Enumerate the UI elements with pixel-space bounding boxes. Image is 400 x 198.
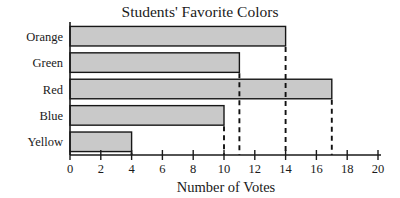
bar-chart: Students' Favorite Colors OrangeGreenRed… — [0, 0, 400, 198]
x-tick-label-10: 10 — [218, 162, 231, 176]
x-tick-label-2: 2 — [98, 162, 104, 176]
x-tick-label-18: 18 — [341, 162, 354, 176]
x-tick-label-20: 20 — [372, 162, 385, 176]
chart-title: Students' Favorite Colors — [122, 3, 279, 20]
bar-blue — [70, 106, 224, 126]
bar-red — [70, 79, 332, 99]
x-tick-label-6: 6 — [159, 162, 165, 176]
category-label-yellow: Yellow — [27, 135, 63, 149]
bar-orange — [70, 26, 286, 46]
x-tick-label-8: 8 — [190, 162, 196, 176]
x-axis-title: Number of Votes — [177, 179, 276, 195]
bar-green — [70, 53, 239, 73]
category-label-green: Green — [32, 56, 63, 70]
category-label-red: Red — [43, 83, 64, 97]
category-label-blue: Blue — [39, 109, 63, 123]
bar-yellow — [70, 132, 132, 152]
x-tick-label-0: 0 — [67, 162, 73, 176]
category-label-orange: Orange — [26, 30, 63, 44]
x-tick-label-16: 16 — [310, 162, 323, 176]
x-tick-label-14: 14 — [279, 162, 292, 176]
x-tick-label-4: 4 — [128, 162, 135, 176]
x-tick-label-12: 12 — [249, 162, 262, 176]
chart-canvas: Students' Favorite Colors OrangeGreenRed… — [0, 0, 400, 198]
